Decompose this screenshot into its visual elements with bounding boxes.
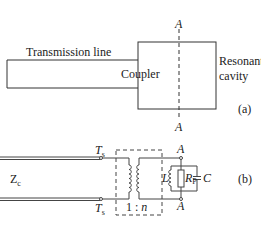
secondary-bottom-wire [139,192,180,199]
primary-coil [129,165,131,192]
inductor-label: L [161,171,169,185]
inductor-coil [169,170,171,186]
terminal-bottom-label: Ts [95,201,105,217]
node-a-bottom-label: A [176,199,185,213]
part-a-label: (a) [238,102,251,116]
cavity-label-line1: Resonant [219,54,261,68]
node-a-top [180,157,183,160]
part-b-label: (b) [238,172,252,186]
resonant-cavity-diagram: Transmission line Coupler Resonant cavit… [0,0,261,228]
node-a-top-label: A [176,142,185,156]
plane-label-top: A [174,17,183,31]
capacitor-label: C [203,171,212,185]
resistor [178,170,184,187]
resistor-label: RP [184,171,197,186]
impedance-label: Zc [10,172,21,188]
transmission-line-shape [7,60,138,88]
secondary-top-wire [139,158,180,165]
cavity-label-line2: cavity [219,69,248,83]
coupler-label: Coupler [121,67,160,81]
plane-label-bottom: A [174,120,183,134]
transmission-line-label: Transmission line [26,45,111,59]
secondary-coil [137,165,139,192]
turns-ratio-label: 1 : n [126,200,147,214]
terminal-top-label: Ts [95,143,105,159]
figure-a [7,29,216,120]
